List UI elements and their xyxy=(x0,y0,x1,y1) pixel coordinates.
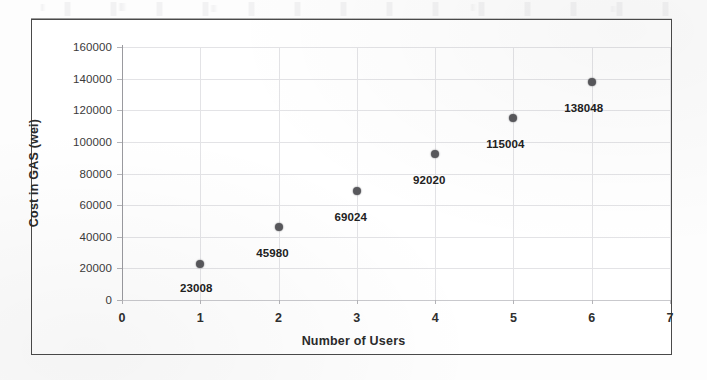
data-point-label: 115004 xyxy=(486,138,524,150)
chart-page: 0200004000060000800001000001200001400001… xyxy=(0,0,707,380)
data-point-label: 23008 xyxy=(180,282,212,294)
x-tick-mark xyxy=(670,300,671,304)
data-point-marker xyxy=(196,260,204,268)
x-tick-label: 4 xyxy=(432,311,439,325)
gridlines xyxy=(122,47,670,300)
y-tick-label: 160000 xyxy=(73,41,112,53)
data-point-label: 45980 xyxy=(256,247,288,259)
x-tick-mark xyxy=(357,300,358,304)
gridline-vertical xyxy=(357,47,358,300)
y-tick-mark xyxy=(117,174,122,175)
scan-artifact-top-secondary xyxy=(50,2,670,16)
y-tick-mark xyxy=(117,47,122,48)
plot-area xyxy=(122,47,670,300)
data-point-label: 138048 xyxy=(564,102,603,114)
x-tick-mark xyxy=(279,300,280,304)
data-point-marker xyxy=(275,223,283,231)
y-tick-mark xyxy=(117,268,122,269)
data-point-label: 69024 xyxy=(335,211,367,223)
y-tick-mark xyxy=(117,142,122,143)
x-axis-line xyxy=(122,300,671,301)
y-tick-mark xyxy=(117,205,122,206)
gridline-vertical xyxy=(513,47,514,300)
y-tick-label: 20000 xyxy=(80,262,112,274)
gridline-horizontal xyxy=(122,268,670,269)
x-tick-label: 2 xyxy=(275,311,282,325)
x-tick-label: 7 xyxy=(667,311,674,325)
x-tick-mark xyxy=(200,300,201,304)
y-tick-label: 60000 xyxy=(80,199,112,211)
gridline-horizontal xyxy=(122,47,670,48)
x-tick-label: 5 xyxy=(510,311,517,325)
y-axis-title: Cost in GAS (wei) xyxy=(27,119,41,227)
data-point-label: 92020 xyxy=(413,174,445,186)
y-tick-mark xyxy=(117,79,122,80)
y-tick-label: 140000 xyxy=(73,73,112,85)
x-tick-label: 3 xyxy=(353,311,360,325)
gridline-horizontal xyxy=(122,174,670,175)
x-axis-title: Number of Users xyxy=(0,334,707,348)
x-tick-mark xyxy=(122,300,123,304)
x-tick-label: 1 xyxy=(197,311,204,325)
y-tick-label: 0 xyxy=(106,294,113,306)
y-axis-line xyxy=(122,45,123,302)
x-tick-mark xyxy=(513,300,514,304)
x-tick-mark xyxy=(435,300,436,304)
data-point-marker xyxy=(588,78,596,86)
y-tick-label: 40000 xyxy=(80,231,112,243)
gridline-horizontal xyxy=(122,205,670,206)
gridline-horizontal xyxy=(122,237,670,238)
x-tick-label: 0 xyxy=(119,311,126,325)
gridline-vertical xyxy=(279,47,280,300)
data-point-marker xyxy=(353,187,361,195)
y-tick-label: 80000 xyxy=(80,168,112,180)
gridline-horizontal xyxy=(122,142,670,143)
y-tick-mark xyxy=(117,110,122,111)
x-tick-mark xyxy=(592,300,593,304)
y-tick-label: 120000 xyxy=(73,104,112,116)
y-tick-label: 100000 xyxy=(73,136,112,148)
x-tick-label: 6 xyxy=(588,311,595,325)
y-tick-mark xyxy=(117,237,122,238)
